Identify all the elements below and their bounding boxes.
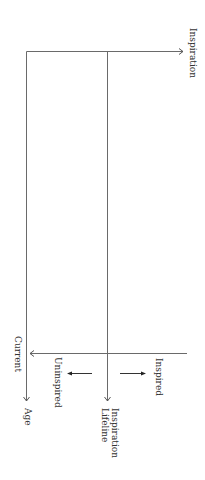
inspiration-lifeline <box>105 52 111 402</box>
current-line <box>30 351 187 357</box>
inspired-direction-arrow <box>120 372 146 376</box>
uninspired-direction-arrow <box>67 372 92 376</box>
inspired-arrow-icon <box>141 372 146 376</box>
lifeline-label-line2: Lifeline <box>100 408 110 442</box>
uninspired-label: Uninspired <box>53 357 63 408</box>
age-axis-label: Age <box>23 408 33 426</box>
inspiration-axis-label: Inspiration <box>188 28 198 78</box>
inspired-label: Inspired <box>154 358 164 396</box>
lifeline-label-line1: Inspiration <box>110 408 120 458</box>
age-axis <box>24 52 30 402</box>
inspiration-axis <box>27 49 184 55</box>
uninspired-arrow-icon <box>67 372 72 376</box>
current-label: Current <box>13 336 23 372</box>
